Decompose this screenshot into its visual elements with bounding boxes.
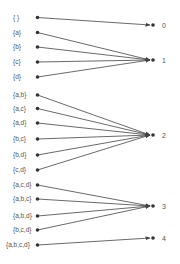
- subset-label: {c}: [13, 58, 21, 66]
- cardinality-label: 3: [162, 203, 166, 210]
- subset-label: {a}: [13, 29, 22, 37]
- subset-label: {a,b}: [13, 91, 27, 99]
- subset-node-dot: [36, 228, 40, 232]
- subset-label: {a,b,d}: [13, 212, 33, 220]
- subset-node-dot: [36, 45, 40, 49]
- subset-label: {a,c}: [13, 105, 27, 113]
- mapping-arrow: [38, 206, 151, 216]
- subset-node-dot: [36, 121, 40, 125]
- subset-node-dot: [36, 183, 40, 187]
- mapping-arrow: [38, 135, 151, 170]
- mapping-arrow: [38, 47, 151, 60]
- cardinality-label: 2: [162, 132, 166, 139]
- cardinality-node-dot: [151, 204, 155, 208]
- subset-node-dot: [36, 93, 40, 97]
- mapping-arrow: [38, 60, 151, 62]
- subset-label: { }: [13, 14, 20, 22]
- subset-label: {b,c}: [13, 135, 27, 143]
- subset-node-dot: [36, 137, 40, 141]
- subset-node-dot: [36, 75, 40, 79]
- left-nodes-group: { }{a}{b}{c}{d}{a,b}{a,c}{a,d}{b,c}{b,d}…: [6, 14, 39, 250]
- cardinality-label: 1: [162, 57, 166, 64]
- subset-node-dot: [36, 107, 40, 111]
- subset-cardinality-diagram: { }{a}{b}{c}{d}{a,b}{a,c}{a,d}{b,c}{b,d}…: [0, 0, 180, 264]
- subset-node-dot: [36, 243, 40, 247]
- cardinality-node-dot: [151, 23, 155, 27]
- mapping-arrow: [38, 18, 151, 26]
- subset-node-dot: [36, 214, 40, 218]
- subset-node-dot: [36, 60, 40, 64]
- edges-group: [38, 18, 151, 246]
- subset-label: {b}: [13, 43, 22, 51]
- subset-node-dot: [36, 31, 40, 35]
- mapping-arrow: [38, 33, 151, 61]
- cardinality-node-dot: [151, 133, 155, 137]
- subset-label: {c,d}: [13, 166, 27, 174]
- right-nodes-group: 01234: [151, 22, 166, 242]
- cardinality-label: 0: [162, 22, 166, 29]
- subset-label: {a,c,d}: [13, 181, 32, 189]
- cardinality-label: 4: [162, 235, 166, 242]
- subset-label: {a,b,c,d}: [6, 241, 31, 249]
- subset-label: {b,d}: [13, 151, 27, 159]
- subset-node-dot: [36, 153, 40, 157]
- cardinality-node-dot: [151, 58, 155, 62]
- subset-node-dot: [36, 16, 40, 20]
- mapping-arrow: [38, 206, 151, 230]
- mapping-arrow: [38, 238, 151, 245]
- mapping-arrow: [38, 60, 151, 77]
- subset-label: {d}: [13, 73, 22, 81]
- subset-node-dot: [36, 168, 40, 172]
- mapping-arrow: [38, 109, 151, 136]
- subset-label: {a,d}: [13, 119, 27, 127]
- subset-node-dot: [36, 197, 40, 201]
- cardinality-node-dot: [151, 236, 155, 240]
- subset-label: {b,c,d}: [13, 226, 32, 234]
- subset-label: {a,b,c}: [13, 195, 32, 203]
